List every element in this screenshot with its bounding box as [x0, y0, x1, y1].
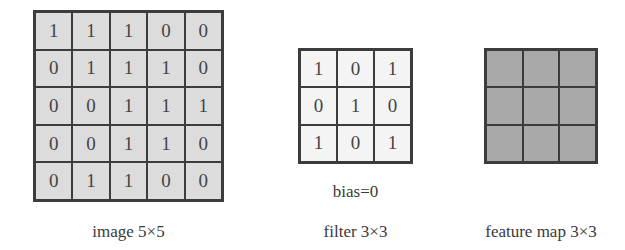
feature-cell [486, 50, 523, 87]
image-cell: 0 [35, 125, 72, 163]
feature-cell [523, 125, 560, 162]
filter-label: filter 3×3 [298, 222, 413, 242]
feature-cell [486, 87, 523, 124]
filter-cell: 0 [337, 50, 374, 87]
image-cell: 1 [110, 162, 147, 200]
image-cell: 1 [72, 50, 109, 88]
image-cell: 1 [35, 12, 72, 50]
filter-cell: 1 [300, 50, 337, 87]
image-cell: 0 [185, 125, 222, 163]
image-cell: 0 [35, 87, 72, 125]
image-cell: 1 [110, 12, 147, 50]
image-cell: 1 [110, 125, 147, 163]
image-cell: 1 [147, 87, 184, 125]
image-cell: 0 [185, 50, 222, 88]
filter-grid: 1 0 1 0 1 0 1 0 1 [298, 48, 413, 164]
image-cell: 0 [147, 162, 184, 200]
image-cell: 0 [185, 162, 222, 200]
feature-cell [523, 50, 560, 87]
image-cell: 1 [185, 87, 222, 125]
filter-cell: 0 [374, 87, 411, 124]
feature-map-label: feature map 3×3 [470, 222, 612, 242]
image-cell: 1 [110, 87, 147, 125]
feature-cell [523, 87, 560, 124]
filter-cell: 1 [374, 50, 411, 87]
feature-cell [486, 125, 523, 162]
input-image-grid: 1 1 1 0 0 0 1 1 1 0 0 0 1 1 1 0 0 1 1 0 … [33, 10, 224, 202]
feature-cell [559, 87, 596, 124]
image-cell: 0 [147, 12, 184, 50]
filter-cell: 0 [337, 125, 374, 162]
bias-label: bias=0 [298, 182, 413, 202]
image-label: image 5×5 [33, 222, 224, 242]
feature-map-grid [484, 48, 598, 164]
filter-cell: 0 [300, 87, 337, 124]
filter-cell: 1 [374, 125, 411, 162]
image-cell: 0 [35, 162, 72, 200]
filter-cell: 1 [337, 87, 374, 124]
image-cell: 1 [72, 12, 109, 50]
filter-cell: 1 [300, 125, 337, 162]
image-cell: 1 [72, 162, 109, 200]
image-cell: 0 [35, 50, 72, 88]
image-cell: 1 [110, 50, 147, 88]
feature-cell [559, 125, 596, 162]
image-cell: 1 [147, 50, 184, 88]
image-cell: 0 [72, 125, 109, 163]
image-cell: 0 [72, 87, 109, 125]
image-cell: 0 [185, 12, 222, 50]
feature-cell [559, 50, 596, 87]
image-cell: 1 [147, 125, 184, 163]
